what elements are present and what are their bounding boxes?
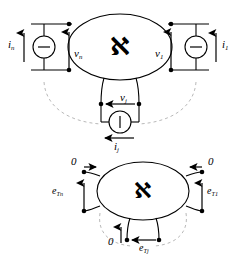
label-voltage-bottom: vj xyxy=(120,92,127,105)
label-emf-right-sub: T1 xyxy=(211,190,218,197)
bottom-lead-left xyxy=(101,78,104,104)
top-left-arc xyxy=(44,82,101,124)
right-terminal-dot-top xyxy=(169,22,174,27)
bottom-bottom-port xyxy=(121,218,161,243)
label-voltage-right: v1 xyxy=(155,48,163,61)
label-voltage-left-sub: n xyxy=(79,53,82,60)
label-emf-bottom-sub: Tj xyxy=(143,247,148,254)
label-current-left-sub: n xyxy=(11,44,14,51)
top-left-port xyxy=(24,22,72,73)
label-voltage-right-sub: 1 xyxy=(160,53,163,60)
bot-right-lead-top xyxy=(186,172,202,176)
bot-left-dot-top xyxy=(82,170,87,175)
label-emf-left: eTn xyxy=(52,186,63,197)
label-emf-right: eT1 xyxy=(207,186,218,197)
label-zero-left: 0 xyxy=(71,156,77,167)
label-emf-left-sub: Tn xyxy=(56,190,63,197)
bottom-diagram xyxy=(82,162,205,246)
label-current-right-sub: 1 xyxy=(225,44,228,51)
bot-left-lead-bottom xyxy=(84,206,100,211)
bot-right-lead-bottom xyxy=(186,206,202,211)
top-right-port xyxy=(168,22,216,73)
label-current-bottom-sub: j xyxy=(117,146,119,153)
label-current-right: i1 xyxy=(222,39,228,52)
bottom-lead-right xyxy=(136,78,139,104)
bot-bot-lead-left xyxy=(127,218,130,240)
label-current-bottom: ij xyxy=(114,141,119,154)
label-emf-bottom: eTj xyxy=(139,243,149,254)
top-bottom-port xyxy=(99,78,142,138)
bot-right-dot-top xyxy=(200,170,205,175)
label-voltage-bottom-sub: j xyxy=(125,97,127,104)
top-right-arc xyxy=(139,82,196,124)
left-terminal-dot-top xyxy=(67,22,72,27)
bot-bot-lead-right xyxy=(156,218,159,240)
bot-bot-dot-left xyxy=(125,238,130,243)
figure-canvas: ℵ in vn v1 i1 vj ij ℵ 0 eTn 0 eT1 0 eTj xyxy=(0,0,239,257)
top-network-symbol: ℵ xyxy=(110,34,130,59)
label-voltage-left: vn xyxy=(74,48,82,61)
label-zero-bottom: 0 xyxy=(108,236,114,247)
bot-left-lead-top xyxy=(84,172,100,176)
label-current-left: in xyxy=(8,39,14,52)
label-zero-right: 0 xyxy=(208,156,214,167)
bot-bot-dot-right xyxy=(157,238,162,243)
bottom-network-symbol: ℵ xyxy=(134,180,151,202)
